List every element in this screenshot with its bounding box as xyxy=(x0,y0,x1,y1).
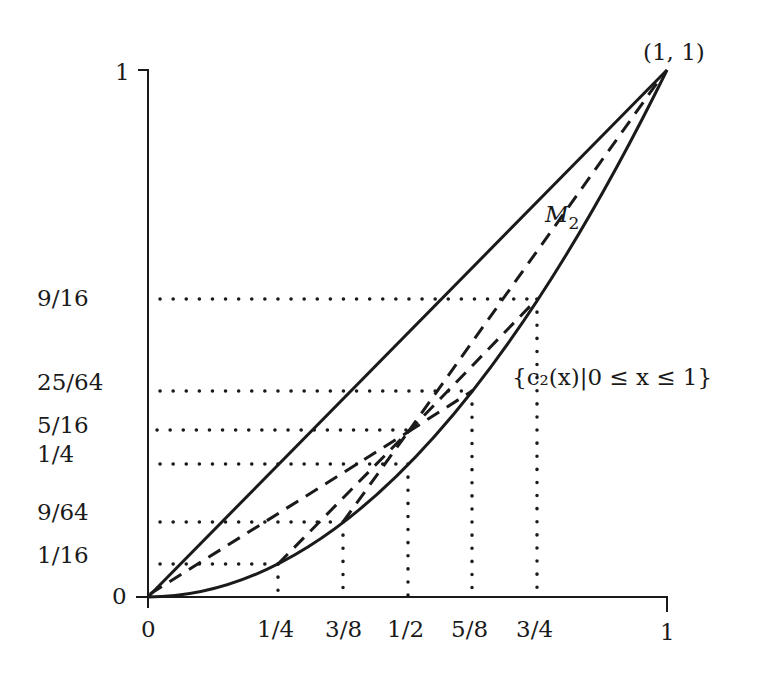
x-tick-5-8: 5/8 xyxy=(451,616,488,642)
x-tick-0: 0 xyxy=(141,616,156,642)
y-tick-1-4: 1/4 xyxy=(37,441,74,467)
y-tick-0: 0 xyxy=(112,583,127,609)
y-tick-9-16: 9/16 xyxy=(37,285,89,311)
y-tick-25-64: 25/64 xyxy=(37,369,103,395)
y-tick-1-16: 1/16 xyxy=(37,542,89,568)
x-tick-1-4: 1/4 xyxy=(257,616,294,642)
bezier-curve-diagram: 1 9/16 25/64 5/16 1/4 9/64 1/16 0 0 1/4 … xyxy=(0,0,766,679)
point-label-1-1: (1, 1) xyxy=(643,39,705,65)
x-tick-1: 1 xyxy=(660,619,675,645)
y-tick-9-64: 9/64 xyxy=(37,499,89,525)
y-axis xyxy=(138,70,148,597)
x-tick-1-2: 1/2 xyxy=(387,616,424,642)
y-tick-labels: 1 9/16 25/64 5/16 1/4 9/64 1/16 0 xyxy=(37,59,130,609)
polygon-label-m2: M2 xyxy=(544,201,579,233)
x-tick-3-8: 3/8 xyxy=(325,616,362,642)
x-tick-3-4: 3/4 xyxy=(516,616,553,642)
curve-label: {c₂(x)|0 ≤ x ≤ 1} xyxy=(512,364,712,391)
y-tick-5-16: 5/16 xyxy=(37,412,89,438)
y-tick-1: 1 xyxy=(115,59,130,85)
x-tick-labels: 0 1/4 3/8 1/2 5/8 3/4 1 xyxy=(141,616,675,645)
x-axis xyxy=(148,597,667,612)
